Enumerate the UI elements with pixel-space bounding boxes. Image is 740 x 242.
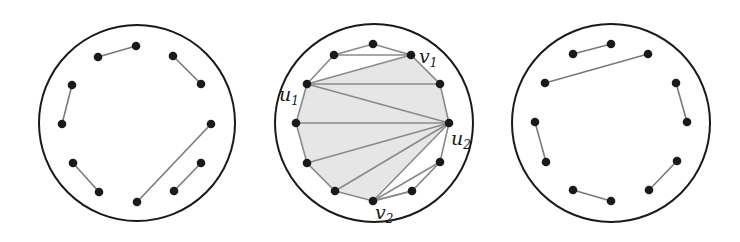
vertex-point bbox=[569, 186, 578, 195]
vertex-point bbox=[95, 188, 104, 197]
vertex-point bbox=[531, 118, 540, 127]
matching-edge bbox=[73, 163, 99, 192]
matching-edge bbox=[98, 46, 136, 57]
vertex-point bbox=[330, 51, 339, 60]
vertex-point bbox=[407, 51, 416, 60]
matching-edge bbox=[573, 190, 611, 201]
matching-edge bbox=[573, 44, 611, 54]
vertex-point bbox=[331, 187, 340, 196]
vertex-point bbox=[445, 119, 454, 128]
left-circle-panel bbox=[39, 25, 235, 221]
vertex-point bbox=[408, 187, 417, 196]
matching-edge bbox=[676, 83, 687, 122]
vertex-point bbox=[683, 118, 692, 127]
vertex-point bbox=[569, 50, 578, 59]
vertex-label-v1: v1 bbox=[419, 45, 437, 70]
vertex-point bbox=[68, 81, 77, 90]
vertex-point bbox=[672, 79, 681, 88]
matching-edge bbox=[545, 54, 648, 83]
vertex-point bbox=[541, 79, 550, 88]
matching-edge bbox=[649, 161, 677, 190]
vertex-point bbox=[644, 50, 653, 59]
right-circle-panel bbox=[512, 24, 710, 222]
vertex-point bbox=[169, 52, 178, 61]
vertex-point bbox=[133, 198, 142, 207]
vertex-point bbox=[645, 186, 654, 195]
matching-edge bbox=[535, 122, 546, 162]
vertex-point bbox=[197, 80, 206, 89]
vertex-point bbox=[292, 119, 301, 128]
vertex-point bbox=[303, 80, 312, 89]
vertex-point bbox=[673, 157, 682, 166]
matching-edge bbox=[173, 56, 201, 84]
outer-circle bbox=[512, 24, 710, 222]
vertex-label-u1: u1 bbox=[279, 83, 299, 108]
vertex-point bbox=[197, 159, 206, 168]
vertex-point bbox=[170, 187, 179, 196]
vertex-point bbox=[207, 120, 216, 129]
vertex-point bbox=[303, 159, 312, 168]
vertex-point bbox=[436, 80, 445, 89]
diagram-canvas: u1v1u2v2 bbox=[0, 0, 740, 242]
vertex-point bbox=[132, 42, 141, 51]
matching-edge bbox=[174, 163, 201, 191]
vertex-point bbox=[58, 120, 67, 129]
vertex-point bbox=[436, 158, 445, 167]
matching-edge bbox=[62, 85, 72, 124]
vertex-label-v2: v2 bbox=[375, 201, 393, 226]
middle-circle-panel: u1v1u2v2 bbox=[275, 24, 473, 226]
shaded-region bbox=[296, 55, 449, 201]
vertex-point bbox=[607, 197, 616, 206]
vertex-point bbox=[69, 159, 78, 168]
vertex-point bbox=[607, 40, 616, 49]
vertex-point bbox=[542, 158, 551, 167]
outer-circle bbox=[39, 25, 235, 221]
vertex-point bbox=[94, 53, 103, 62]
vertex-label-u2: u2 bbox=[451, 127, 471, 152]
vertex-point bbox=[369, 40, 378, 49]
